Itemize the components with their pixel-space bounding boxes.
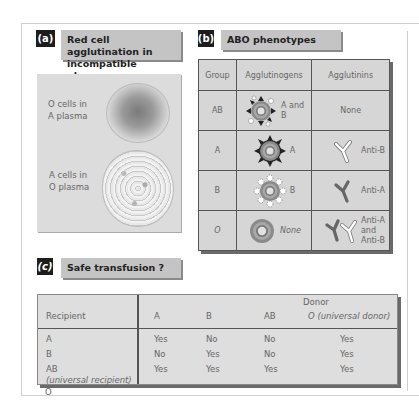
agglutinogen-label: A and B bbox=[281, 101, 304, 121]
agglutinogen-cell: A and B bbox=[236, 91, 312, 131]
agglutinogen-cell: A bbox=[236, 131, 312, 171]
agglutinin-label-line3: Anti-B bbox=[361, 236, 385, 246]
group-cell: A bbox=[199, 131, 237, 171]
dish-label-2: A cells in O plasma bbox=[49, 169, 89, 193]
agglutinin-cell: Anti-B bbox=[312, 131, 390, 171]
header-agglutinins: Agglutinins bbox=[312, 60, 390, 91]
panel-a-tag: (a) bbox=[36, 30, 55, 47]
agglutinogen-label: A bbox=[290, 146, 295, 155]
cell-a-o: Yes bbox=[340, 334, 354, 344]
dish-label-2-line2: O plasma bbox=[49, 181, 89, 193]
ab-red-cell-icon bbox=[244, 94, 278, 128]
cell-ab-ab: Yes bbox=[264, 364, 278, 374]
header-agglutinogens: Agglutinogens bbox=[236, 60, 312, 91]
cell-ab-b: Yes bbox=[206, 364, 220, 374]
agglutinin-cell: Anti-A bbox=[312, 171, 390, 211]
agglutinogen-label-line2: B bbox=[281, 111, 304, 121]
recipient-a: A bbox=[46, 334, 52, 344]
header-divider bbox=[38, 328, 397, 329]
cell-b-o: Yes bbox=[340, 349, 354, 359]
panel-b-tag: (b) bbox=[198, 30, 214, 47]
a-red-cell-spiky-icon bbox=[253, 134, 287, 168]
donor-col-b: B bbox=[206, 311, 212, 321]
group-cell: B bbox=[199, 171, 237, 211]
right-border-line bbox=[407, 31, 408, 391]
table-row: A A Anti-B bbox=[199, 131, 390, 171]
o-cells-in-a-plasma-dish bbox=[106, 83, 170, 143]
cell-a-b: No bbox=[206, 334, 218, 344]
donor-col-a: A bbox=[154, 311, 160, 321]
agglutinogen-label: B bbox=[290, 186, 296, 195]
agglutinin-label-line1: Anti-A bbox=[361, 216, 385, 226]
anti-b-antibody-icon bbox=[333, 139, 355, 163]
recipient-header: Recipient bbox=[46, 311, 86, 321]
dish-label-2-line1: A cells in bbox=[49, 169, 89, 181]
agglutinin-cell: Anti-A and Anti-B bbox=[312, 211, 390, 251]
safe-transfusion-table: Donor Recipient A B AB O (universal dono… bbox=[37, 294, 398, 385]
panel-a-title-line1: Red cell agglutination in bbox=[67, 34, 175, 58]
b-red-cell-scalloped-icon bbox=[253, 174, 287, 208]
recipient-ab: AB bbox=[46, 364, 58, 374]
table-row: B B Anti-A bbox=[199, 171, 390, 211]
panel-c-tag: (c) bbox=[37, 258, 53, 275]
donor-col-ab: AB bbox=[264, 311, 276, 321]
donor-header: Donor bbox=[303, 297, 329, 307]
agglutinin-cell: None bbox=[312, 91, 390, 131]
recipient-b: B bbox=[46, 349, 52, 359]
table-row: AB A and B None bbox=[199, 91, 390, 131]
agglutinogen-label-line1: A and bbox=[281, 101, 304, 111]
panel-a-title: Red cell agglutination in incompatible p… bbox=[61, 30, 181, 60]
agglutinogen-cell: B bbox=[236, 171, 312, 211]
panel-c-title: Safe transfusion ? bbox=[61, 258, 181, 278]
anti-a-antibody-icon bbox=[333, 179, 355, 203]
cell-a-a: Yes bbox=[154, 334, 168, 344]
agglutinin-label: Anti-A bbox=[361, 186, 385, 195]
recipient-ab-note: (universal recipient) bbox=[46, 375, 132, 385]
anti-a-and-anti-b-antibodies-icon bbox=[325, 218, 359, 244]
dish-label-1: O cells in A plasma bbox=[48, 98, 87, 122]
group-cell: O bbox=[199, 211, 237, 251]
cell-b-a: No bbox=[154, 349, 166, 359]
agglutinin-label: Anti-B bbox=[361, 146, 385, 155]
group-cell: AB bbox=[199, 91, 237, 131]
abo-phenotypes-table: Group Agglutinogens Agglutinins AB A and… bbox=[198, 59, 390, 251]
table-row: O None Anti-A and Anti-B bbox=[199, 211, 390, 251]
agglutinin-label-line2: and bbox=[361, 226, 385, 236]
donor-col-o: O (universal donor) bbox=[308, 311, 390, 321]
a-cells-in-o-plasma-dish bbox=[102, 150, 174, 227]
recipient-o: O bbox=[45, 387, 52, 397]
panel-b-title: ABO phenotypes bbox=[221, 30, 341, 50]
dish-label-1-line2: A plasma bbox=[48, 110, 87, 122]
cell-b-b: Yes bbox=[206, 349, 220, 359]
cell-b-ab: No bbox=[264, 349, 276, 359]
o-red-cell-plain-icon bbox=[247, 216, 277, 246]
agglutinin-label: Anti-A and Anti-B bbox=[361, 216, 385, 246]
cell-ab-a: Yes bbox=[154, 364, 168, 374]
dish-label-1-line1: O cells in bbox=[48, 98, 87, 110]
table-header-row: Group Agglutinogens Agglutinins bbox=[199, 60, 390, 91]
agglutinogen-cell: None bbox=[236, 211, 312, 251]
agglutinogen-label: None bbox=[280, 226, 301, 235]
cell-ab-o: Yes bbox=[340, 364, 354, 374]
cell-a-ab: No bbox=[264, 334, 276, 344]
header-group: Group bbox=[199, 60, 237, 91]
